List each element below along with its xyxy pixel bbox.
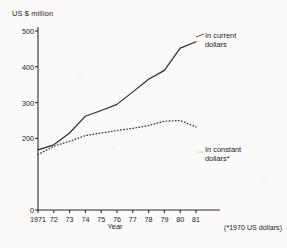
- chart-figure: US $ million 0200300400500 1971727374757…: [0, 0, 287, 248]
- series-label-constant-line1: In constant: [205, 145, 241, 154]
- leader-line-current: [196, 34, 204, 37]
- series-label-constant: In constant dollars*: [205, 145, 241, 163]
- x-axis-title: Year: [0, 222, 230, 231]
- series-label-current: In current dollars: [205, 31, 236, 49]
- series-line-current-dollars: [38, 42, 196, 150]
- chart-footnote: (*1970 US dollars): [224, 224, 282, 232]
- plot-area: [0, 0, 287, 248]
- series-label-current-line2: dollars: [205, 40, 236, 49]
- series-label-constant-line2: dollars*: [205, 154, 241, 163]
- series-line-constant-dollars: [38, 121, 196, 155]
- series-label-current-line1: In current: [205, 31, 236, 40]
